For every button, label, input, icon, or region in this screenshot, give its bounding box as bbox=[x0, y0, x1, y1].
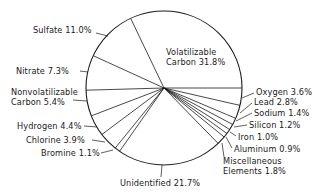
leader-oxygen bbox=[242, 93, 254, 98]
leader-aluminum bbox=[226, 137, 232, 148]
label-bromine: Bromine 1.1% bbox=[41, 148, 100, 158]
pie-chart: Volatilizable Carbon 31.8% Sulfate 11.0%… bbox=[0, 0, 328, 193]
label-miscellaneous: Miscellaneous Elements 1.8% bbox=[223, 156, 286, 176]
pie-body bbox=[86, 11, 242, 165]
leader-hydrogen bbox=[84, 126, 97, 127]
leader-silicon bbox=[234, 125, 247, 127]
label-sulfate: Sulfate 11.0% bbox=[33, 25, 92, 35]
leader-unidentified bbox=[161, 165, 162, 177]
label-hydrogen: Hydrogen 4.4% bbox=[17, 121, 82, 131]
leader-miscellaneous bbox=[222, 143, 224, 157]
leader-sulfate bbox=[96, 33, 108, 36]
label-lead: Lead 2.8% bbox=[254, 97, 298, 107]
label-aluminum: Aluminum 0.9% bbox=[234, 144, 300, 154]
label-nitrate: Nitrate 7.3% bbox=[16, 66, 69, 76]
leader-nitrate bbox=[80, 71, 88, 72]
leader-iron bbox=[230, 132, 236, 136]
label-sodium: Sodium 1.4% bbox=[254, 108, 309, 118]
leader-bromine bbox=[101, 150, 113, 153]
leader-chlorine bbox=[92, 140, 105, 142]
label-nonvolatilizable-carbon: Nonvolatilizable Carbon 5.4% bbox=[11, 87, 81, 107]
label-iron: Iron 1.0% bbox=[238, 132, 278, 142]
leader-nonvolatilizable bbox=[73, 100, 87, 101]
leader-lead bbox=[240, 103, 252, 113]
label-unidentified: Unidentified 21.7% bbox=[120, 178, 200, 188]
label-volatilizable-carbon: Volatilizable Carbon 31.8% bbox=[166, 47, 225, 67]
label-oxygen: Oxygen 3.6% bbox=[256, 87, 312, 97]
label-chlorine: Chlorine 3.9% bbox=[26, 135, 85, 145]
label-silicon: Silicon 1.2% bbox=[249, 120, 300, 130]
